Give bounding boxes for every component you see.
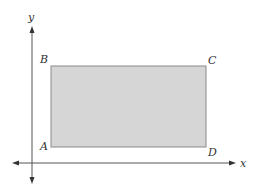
x-axis (12, 161, 236, 166)
y-axis-down-arrow-icon (30, 177, 35, 184)
vertex-label-c: C (208, 54, 217, 67)
x-axis-left-arrow-icon (12, 161, 19, 166)
vertex-label-b: B (39, 53, 48, 66)
x-axis-label: x (240, 157, 247, 170)
vertex-label-a: A (39, 140, 48, 153)
coordinate-diagram: y x B C A D (0, 0, 255, 187)
y-axis (30, 26, 35, 184)
y-axis-up-arrow-icon (30, 26, 35, 33)
x-axis-right-arrow-icon (229, 161, 236, 166)
vertex-label-d: D (207, 146, 217, 159)
y-axis-label: y (27, 11, 35, 24)
rectangle-abcd (51, 66, 206, 147)
